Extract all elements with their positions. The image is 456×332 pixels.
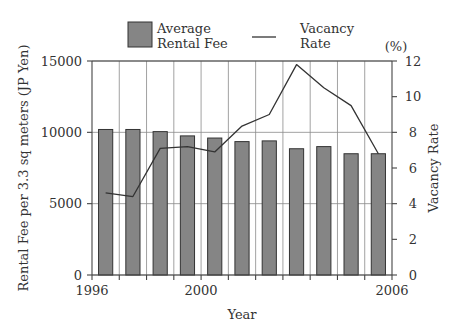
bar-2002 <box>262 141 276 275</box>
y-tick-label: 15000 <box>41 54 82 69</box>
bar-2000 <box>208 138 222 275</box>
y-tick-label: 10000 <box>41 125 82 140</box>
y2-tick-label: 12 <box>405 54 422 69</box>
legend-label-vacancy-rate-line2: Rate <box>300 36 331 51</box>
bar-1999 <box>180 136 194 275</box>
legend: Average Rental Fee Vacancy Rate <box>128 21 355 51</box>
y2-tick-label: 6 <box>409 161 417 176</box>
legend-label-vacancy-rate-line1: Vacancy <box>299 21 355 36</box>
bar-2004 <box>317 147 331 275</box>
y-tick-label: 5000 <box>49 196 82 211</box>
bar-1997 <box>126 129 140 275</box>
x-tick-label-1996: 1996 <box>75 283 108 298</box>
bar-2005 <box>344 154 358 275</box>
y2-tick-label: 8 <box>409 125 417 140</box>
bar-2003 <box>289 149 303 275</box>
y2-tick-label: 4 <box>409 196 417 211</box>
y2-axis-title: Vacancy Rate <box>426 123 441 213</box>
y-tick-label: 0 <box>74 268 82 283</box>
y2-tick-label: 0 <box>409 268 417 283</box>
bar-1996 <box>99 129 113 275</box>
x-tick-label-2006: 2006 <box>375 283 408 298</box>
tick-labels: 050001000015000024681012199620002006 <box>41 54 422 299</box>
x-axis-title: Year <box>226 307 257 322</box>
bar-2006 <box>371 154 385 275</box>
chart: 050001000015000024681012199620002006 Yea… <box>0 0 456 332</box>
bar-2001 <box>235 142 249 275</box>
bars-layer <box>99 129 386 275</box>
y-axis-title: Rental Fee per 3.3 sq meters (JP Yen) <box>16 45 31 292</box>
y2-unit-label: (%) <box>385 39 408 54</box>
legend-swatch-rental-fee <box>128 22 152 47</box>
y2-tick-label: 10 <box>405 89 422 104</box>
y2-tick-label: 2 <box>409 232 417 247</box>
legend-label-rental-fee-line1: Average <box>156 21 211 36</box>
bar-1998 <box>153 132 167 275</box>
legend-label-rental-fee-line2: Rental Fee <box>157 36 228 51</box>
x-tick-label-2000: 2000 <box>185 283 218 298</box>
